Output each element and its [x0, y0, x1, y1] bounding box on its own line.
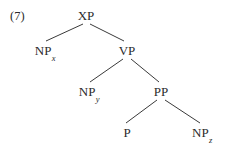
tree-node-npx-subscript: x: [52, 53, 56, 63]
tree-node-pp: PP: [154, 85, 168, 101]
tree-node-npz: NPz: [192, 126, 212, 142]
tree-node-npx: NPx: [35, 44, 55, 60]
tree-node-xp: XP: [78, 9, 95, 25]
tree-node-p: P: [123, 126, 130, 142]
tree-node-npy-subscript: y: [96, 94, 100, 104]
tree-node-p-label: P: [123, 125, 130, 140]
tree-node-vp-label: VP: [119, 43, 136, 58]
branch-xp-vp: [90, 24, 124, 41]
tree-node-vp: VP: [119, 44, 136, 60]
branch-xp-npx: [46, 24, 83, 41]
tree-node-pp-label: PP: [154, 84, 168, 99]
branch-vp-npy: [90, 59, 123, 82]
tree-node-npy-label: NP: [79, 84, 96, 99]
branch-vp-pp: [131, 59, 159, 82]
branch-pp-npz: [165, 100, 200, 123]
branch-pp-p: [126, 100, 157, 123]
tree-node-xp-label: XP: [78, 8, 95, 23]
tree-node-npy: NPy: [79, 85, 99, 101]
syntax-tree-figure: (7) XP NPx VP NPy PP P NPz: [0, 0, 226, 148]
tree-node-npx-label: NP: [35, 43, 52, 58]
tree-node-npz-subscript: z: [209, 135, 212, 145]
tree-node-npz-label: NP: [192, 125, 209, 140]
